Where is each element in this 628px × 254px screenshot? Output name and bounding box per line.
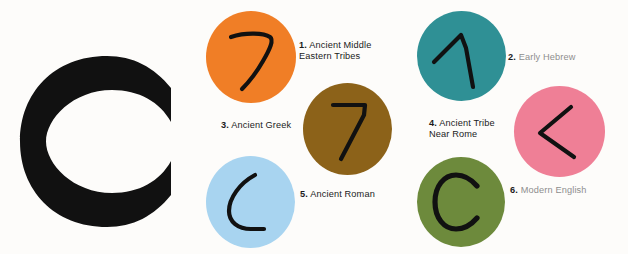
stage-caption-6: 6. Modern English bbox=[510, 185, 625, 196]
display-letter-c bbox=[8, 34, 198, 249]
stage-caption-4: 4. Ancient Tribe Near Rome bbox=[429, 118, 529, 141]
stage-caption-1: 1. Ancient Middle Eastern Tribes bbox=[299, 40, 409, 63]
letter-evolution-figure: 1. Ancient Middle Eastern Tribes 2. Earl… bbox=[0, 0, 628, 254]
stage-label-3: Ancient Greek bbox=[231, 120, 291, 130]
stage-number-2: 2. bbox=[508, 52, 516, 62]
early-hebrew-gimel-icon bbox=[417, 11, 506, 101]
stage-number-5: 5. bbox=[300, 189, 308, 199]
stage-label-4: Ancient Tribe Near Rome bbox=[429, 118, 495, 139]
stage-disc-5-ancient-roman bbox=[206, 156, 295, 248]
stage-label-6: Modern English bbox=[521, 185, 587, 195]
stage-number-3: 3. bbox=[221, 120, 229, 130]
proto-sinaitic-gimel-icon bbox=[206, 11, 296, 103]
stage-number-4: 4. bbox=[429, 118, 437, 128]
stage-caption-5: 5. Ancient Roman bbox=[300, 189, 410, 200]
stage-label-1: Ancient Middle Eastern Tribes bbox=[299, 40, 372, 61]
stage-number-6: 6. bbox=[510, 185, 518, 195]
stage-number-1: 1. bbox=[299, 40, 307, 50]
stage-caption-3: 3. Ancient Greek bbox=[221, 120, 321, 131]
roman-c-rounded-icon bbox=[206, 156, 295, 248]
stage-caption-2: 2. Early Hebrew bbox=[508, 52, 620, 63]
stage-disc-2-early-hebrew bbox=[417, 11, 506, 101]
stage-disc-6-modern-english bbox=[417, 157, 505, 247]
stage-label-5: Ancient Roman bbox=[310, 189, 375, 199]
modern-letter-c-icon bbox=[417, 157, 505, 247]
stage-label-2: Early Hebrew bbox=[519, 52, 576, 62]
stage-disc-1-ancient-middle-eastern-tribes bbox=[206, 11, 296, 103]
